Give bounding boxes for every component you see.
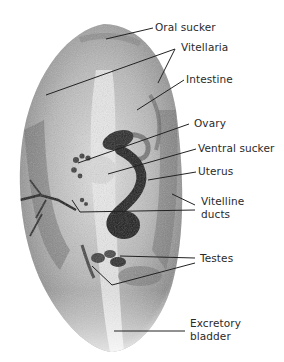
label-uterus: Uterus xyxy=(198,165,233,178)
label-ducts: ducts xyxy=(201,208,230,221)
label-vitelline: Vitelline xyxy=(201,195,244,208)
label-intestine: Intestine xyxy=(186,73,233,86)
fluke-anatomy-diagram: Oral sucker Vitellaria Intestine Ovary V… xyxy=(0,0,284,362)
label-ovary: Ovary xyxy=(194,117,226,130)
label-excretory: Excretory xyxy=(190,317,241,330)
specimen-body xyxy=(0,0,284,362)
label-ventral-sucker: Ventral sucker xyxy=(198,142,274,155)
label-testes: Testes xyxy=(200,252,233,265)
label-oral-sucker: Oral sucker xyxy=(155,21,216,34)
label-vitellaria: Vitellaria xyxy=(181,41,228,54)
label-bladder: bladder xyxy=(190,330,231,343)
specimen-illustration xyxy=(0,0,284,362)
